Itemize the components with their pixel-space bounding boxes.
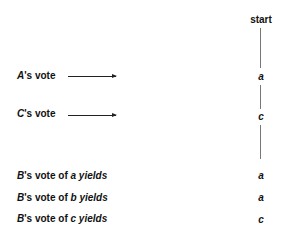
- outcome-result-c: c: [246, 214, 276, 226]
- arrow-right-icon: [68, 115, 116, 116]
- outcome-end: yields: [76, 170, 107, 181]
- vote-suffix: 's vote: [24, 70, 55, 81]
- a-vote-label: A's vote: [17, 70, 56, 82]
- edge-c-outcomes: [260, 125, 261, 159]
- node-c: c: [246, 111, 276, 123]
- arrow-right-icon: [68, 76, 116, 77]
- c-vote-label: C's vote: [17, 108, 56, 120]
- outcome-row-c: B's vote of c yields: [17, 213, 107, 225]
- edge-start-a: [260, 28, 261, 68]
- outcome-row-b: B's vote of b yields: [17, 192, 108, 204]
- outcome-row-a: B's vote of a yields: [17, 170, 107, 182]
- edge-a-c: [260, 85, 261, 109]
- outcome-mid: 's vote of: [24, 213, 70, 224]
- outcome-result-a: a: [246, 170, 276, 182]
- outcome-result-b: a: [246, 192, 276, 204]
- outcome-mid: 's vote of: [24, 192, 70, 203]
- outcome-end: yields: [77, 192, 108, 203]
- node-a: a: [246, 71, 276, 83]
- vote-suffix: 's vote: [24, 108, 55, 119]
- outcome-mid: 's vote of: [24, 170, 70, 181]
- outcome-end: yields: [76, 213, 107, 224]
- start-node: start: [246, 14, 276, 26]
